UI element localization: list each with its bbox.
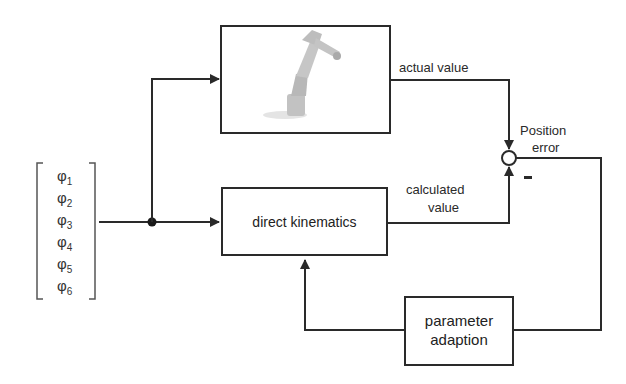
position-error-label-line1: Position — [520, 123, 566, 138]
position-error-label-line2: error — [532, 140, 559, 155]
phi-5: φ5 — [57, 256, 72, 275]
actual-value-line — [390, 80, 509, 149]
direct-kinematics-block[interactable]: direct kinematics — [221, 187, 388, 256]
calculated-value-label-line2: value — [428, 200, 459, 215]
direct-kinematics-label: direct kinematics — [252, 214, 356, 230]
phi-4: φ4 — [57, 234, 72, 253]
parameter-adaption-label-line2: adaption — [430, 331, 488, 350]
phi-6: φ6 — [57, 278, 72, 297]
phi-3: φ3 — [57, 212, 72, 231]
parameter-adaption-label-line1: parameter — [425, 312, 493, 331]
calculated-value-label-line1: calculated — [406, 182, 465, 197]
parameter-adaption-block[interactable]: parameter adaption — [404, 296, 514, 366]
minus-sign — [524, 176, 532, 179]
robot-input-line — [152, 79, 219, 222]
adaption-feedback-line — [305, 260, 404, 330]
phi-1: φ1 — [57, 168, 72, 187]
actual-value-label: actual value — [399, 60, 468, 75]
summing-junction — [502, 151, 516, 165]
position-error-line — [514, 158, 601, 330]
phi-2: φ2 — [57, 190, 72, 209]
